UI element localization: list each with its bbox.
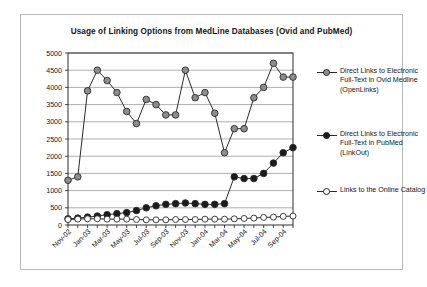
data-point: [192, 94, 199, 101]
data-point: [261, 214, 267, 220]
data-point: [290, 144, 297, 151]
x-axis-tick-label: Sep-03: [149, 228, 171, 250]
x-axis-tick-label: Nov-02: [51, 228, 73, 250]
legend-label-pubmed: Direct Links to Electronic Full-Text in …: [337, 130, 426, 158]
data-point: [202, 201, 209, 208]
data-point: [163, 201, 170, 208]
x-axis-tick-label: Jan-03: [71, 228, 92, 249]
data-point: [74, 174, 81, 181]
data-point: [260, 170, 267, 177]
x-axis-tick-label: Jan-04: [189, 228, 210, 249]
y-axis-tick-label: 3500: [46, 101, 62, 109]
data-point: [211, 110, 218, 117]
data-point: [231, 174, 238, 181]
legend-item-catalog: Links to the Online Catalog: [317, 186, 425, 196]
data-point: [231, 125, 238, 132]
x-axis-tick-label: Mar-03: [90, 228, 112, 250]
data-point: [280, 149, 287, 156]
data-point: [65, 177, 72, 184]
data-point: [182, 67, 189, 74]
data-point: [75, 216, 81, 222]
data-point: [104, 77, 111, 84]
data-point: [211, 201, 218, 208]
data-point: [231, 216, 237, 222]
legend-label-ovid: Direct Links to Electronic Full-Text in …: [337, 67, 426, 95]
data-point: [182, 217, 188, 223]
x-axis-tick-label: Sep-04: [266, 228, 288, 250]
data-point: [192, 200, 199, 207]
data-point: [114, 216, 120, 222]
data-point: [172, 200, 179, 207]
data-point: [123, 209, 130, 216]
legend-marker-ovid-icon: [317, 68, 337, 77]
data-point: [260, 84, 267, 91]
data-point: [241, 175, 248, 182]
data-point: [114, 89, 121, 96]
data-point: [202, 89, 209, 96]
data-point: [270, 60, 277, 67]
data-point: [172, 112, 179, 119]
data-point: [270, 214, 276, 220]
y-axis-tick-label: 1500: [46, 170, 62, 178]
legend-item-pubmed: Direct Links to Electronic Full-Text in …: [317, 130, 426, 158]
data-point: [202, 216, 208, 222]
chart-container: Usage of Linking Options from MedLine Da…: [20, 14, 403, 270]
data-point: [133, 207, 140, 214]
data-point: [251, 94, 258, 101]
data-point: [241, 215, 247, 221]
data-point: [192, 217, 198, 223]
data-point: [143, 217, 149, 223]
data-point: [241, 125, 248, 132]
data-point: [143, 96, 150, 103]
data-point: [182, 200, 189, 207]
data-point: [94, 216, 100, 222]
data-point: [221, 149, 228, 156]
data-point: [270, 160, 277, 167]
legend-item-ovid: Direct Links to Electronic Full-Text in …: [317, 67, 426, 95]
legend-label-catalog: Links to the Online Catalog: [337, 186, 425, 195]
x-axis-tick-label: Mar-04: [208, 228, 230, 250]
legend-marker-catalog-icon: [317, 187, 337, 196]
x-axis-tick-label: May-03: [109, 228, 131, 250]
series-line: [68, 216, 293, 220]
y-axis-tick-label: 1000: [46, 187, 62, 195]
data-point: [133, 217, 139, 223]
data-point: [280, 74, 287, 81]
data-point: [163, 217, 169, 223]
data-point: [153, 217, 159, 223]
y-axis-tick-label: 3000: [46, 118, 62, 126]
data-point: [124, 216, 130, 222]
data-point: [280, 213, 286, 219]
y-axis-tick-label: 2500: [46, 136, 62, 144]
y-axis-tick-label: 500: [50, 204, 62, 212]
data-point: [85, 216, 91, 222]
data-point: [104, 216, 110, 222]
data-point: [153, 202, 160, 209]
data-point: [290, 74, 297, 81]
y-axis-tick-label: 4000: [46, 84, 62, 92]
data-point: [251, 215, 257, 221]
y-axis-tick-label: 2000: [46, 153, 62, 161]
y-axis-tick-label: 4500: [46, 67, 62, 75]
data-point: [143, 205, 150, 212]
data-point: [173, 217, 179, 223]
legend-marker-pubmed-icon: [317, 131, 337, 140]
x-axis-tick-label: Nov-03: [168, 228, 190, 250]
data-point: [251, 175, 258, 182]
data-point: [212, 216, 218, 222]
data-point: [84, 88, 91, 95]
data-point: [123, 108, 130, 115]
data-point: [222, 216, 228, 222]
data-point: [290, 213, 296, 219]
data-point: [221, 200, 228, 207]
data-point: [94, 67, 101, 74]
data-point: [65, 217, 71, 223]
x-axis-tick-label: May-04: [227, 228, 249, 250]
y-axis-tick-label: 0: [58, 222, 62, 230]
data-point: [153, 101, 160, 108]
data-point: [133, 120, 140, 127]
data-point: [163, 112, 170, 119]
y-axis-tick-label: 5000: [46, 50, 62, 58]
